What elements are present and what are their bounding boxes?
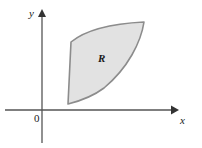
shaded-region-r xyxy=(68,22,144,104)
coordinate-plane-graphic xyxy=(0,0,202,148)
figure-canvas: y x 0 R xyxy=(0,0,202,148)
x-axis-arrowhead xyxy=(171,106,179,115)
x-axis-label: x xyxy=(180,115,185,126)
origin-label: 0 xyxy=(34,113,40,124)
y-axis-arrowhead xyxy=(38,9,46,17)
region-label-r: R xyxy=(98,53,105,64)
y-axis-label: y xyxy=(29,8,34,19)
